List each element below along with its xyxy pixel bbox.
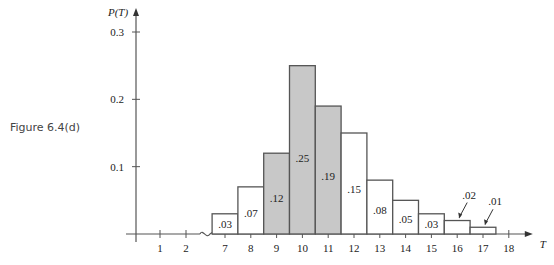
bar-17 — [470, 227, 496, 234]
x-tick-label: 8 — [248, 242, 254, 254]
data-label-13: .08 — [373, 204, 387, 216]
x-tick-label: 1 — [157, 242, 163, 254]
data-label-7: .03 — [218, 218, 232, 230]
x-tick-label: 9 — [274, 242, 280, 254]
probability-histogram: P(T)0.10.20.3T12789101112131415161718 .0… — [0, 0, 554, 265]
data-label-15: .03 — [425, 218, 439, 230]
data-label-8: .07 — [244, 207, 258, 219]
y-tick-label: 0.1 — [110, 161, 124, 173]
data-label-16: .02 — [462, 189, 476, 201]
x-axis-label: T — [540, 238, 547, 250]
y-axis-arrow — [133, 8, 139, 16]
axis-break-icon — [200, 232, 213, 236]
x-tick-label: 7 — [222, 242, 228, 254]
x-tick-label: 18 — [503, 242, 515, 254]
y-tick-label: 0.2 — [110, 93, 124, 105]
data-label-9: .12 — [270, 192, 284, 204]
data-label-11: .19 — [321, 170, 335, 182]
bar-16 — [444, 221, 470, 234]
x-tick-label: 14 — [400, 242, 412, 254]
x-axis-arrow — [525, 231, 533, 237]
x-tick-label: 16 — [452, 242, 464, 254]
y-tick-label: 0.3 — [110, 26, 124, 38]
data-label-14: .05 — [399, 213, 413, 225]
x-tick-label: 17 — [478, 242, 490, 254]
x-tick-label: 15 — [426, 242, 438, 254]
x-tick-label: 13 — [374, 242, 386, 254]
y-axis-label: P(T) — [107, 6, 129, 19]
data-label-10: .25 — [296, 152, 310, 164]
x-tick-label: 11 — [323, 242, 334, 254]
bar-10 — [290, 66, 316, 234]
x-tick-label: 2 — [183, 242, 189, 254]
data-label-12: .15 — [347, 183, 361, 195]
x-tick-label: 12 — [349, 242, 360, 254]
data-label-17: .01 — [488, 195, 502, 207]
x-tick-label: 10 — [297, 242, 309, 254]
